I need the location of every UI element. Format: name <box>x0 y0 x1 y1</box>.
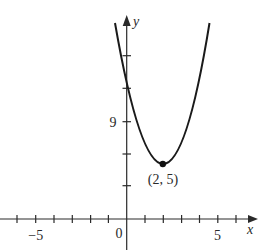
y-axis-label: y <box>131 14 140 29</box>
x-axis-label: x <box>246 222 254 237</box>
origin-label: 0 <box>116 226 123 241</box>
parabola-graph: y x −5 0 5 9 (2, 5) <box>0 0 258 251</box>
y-axis <box>123 15 132 250</box>
x-tick-label-neg5: −5 <box>28 228 43 243</box>
x-tick-label-5: 5 <box>214 228 221 243</box>
y-tick-label-9: 9 <box>110 115 117 130</box>
y-axis-arrow-icon <box>123 15 131 26</box>
parabola-curve <box>115 23 210 164</box>
vertex-label: (2, 5) <box>148 172 179 188</box>
vertex-point <box>160 161 166 167</box>
x-axis <box>0 215 258 223</box>
